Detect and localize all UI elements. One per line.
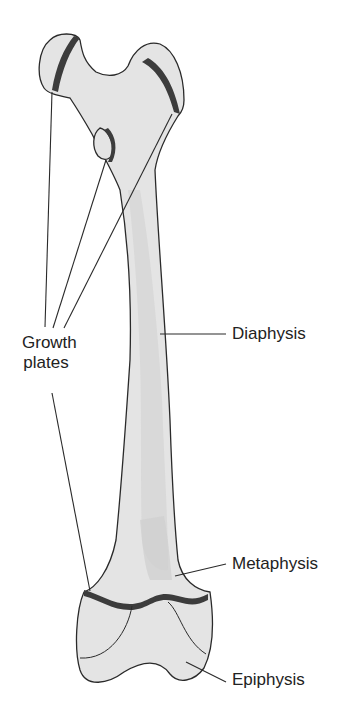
label-growth-plates: Growth plates bbox=[22, 333, 70, 373]
leader-growth-plates-1 bbox=[45, 92, 52, 327]
label-growth-plates-line2: plates bbox=[22, 353, 70, 373]
leader-growth-plates-4 bbox=[52, 393, 90, 591]
label-growth-plates-line1: Growth bbox=[22, 333, 70, 353]
leader-growth-plates-2 bbox=[53, 160, 106, 328]
label-epiphysis: Epiphysis bbox=[232, 670, 305, 690]
label-metaphysis: Metaphysis bbox=[232, 554, 318, 574]
label-diaphysis: Diaphysis bbox=[232, 324, 306, 344]
leader-metaphysis bbox=[175, 564, 226, 576]
